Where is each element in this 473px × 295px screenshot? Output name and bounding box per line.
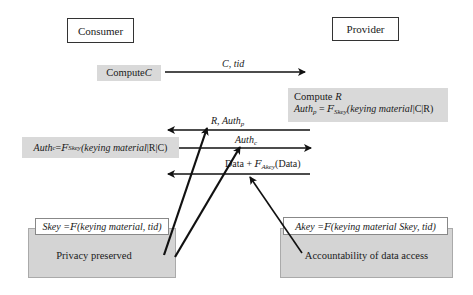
arrow-privacy-to-authp [164,128,207,255]
arrow-layer [0,0,473,295]
arrow-privacy-to-authc [175,147,240,257]
arrow-accountability-to-data [250,177,302,253]
